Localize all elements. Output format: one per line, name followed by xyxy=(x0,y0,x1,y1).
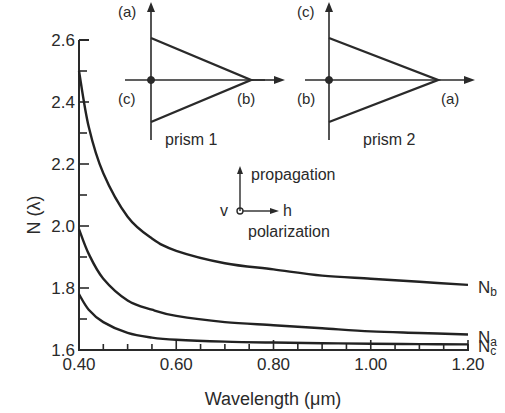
x-tick-label: 0.40 xyxy=(62,355,95,374)
x-axis-label: Wavelength (μm) xyxy=(205,389,342,409)
y-tick-label: 2.0 xyxy=(51,217,75,236)
x-tick-label: 1.20 xyxy=(451,355,484,374)
h-label: h xyxy=(283,202,292,219)
y-tick-label: 2.4 xyxy=(51,93,75,112)
y-axis-label: N (λ) xyxy=(24,196,44,235)
prism-1-arrow xyxy=(251,76,285,84)
polarization-label: polarization xyxy=(248,223,330,240)
prism-1-left-label: (c) xyxy=(118,90,136,107)
tick-labels: 1.61.82.02.22.42.60.400.600.801.001.20 xyxy=(51,31,484,374)
curve-nc xyxy=(79,294,468,344)
prism-1-right-label: (b) xyxy=(237,90,255,107)
axes xyxy=(79,40,468,350)
arrowhead-icon xyxy=(274,76,285,84)
prism-2-left-label: (b) xyxy=(297,90,315,107)
prism-2-diagram xyxy=(305,2,475,140)
prism-2-right-label: (a) xyxy=(441,90,459,107)
prism-1-top-label: (a) xyxy=(118,3,136,20)
arrowhead-icon xyxy=(147,2,155,12)
prism-1-label: prism 1 xyxy=(165,131,218,148)
prism-2-top-label: (c) xyxy=(297,3,315,20)
x-tick-label: 1.00 xyxy=(354,355,387,374)
series-labels: NbNaNc xyxy=(478,278,497,359)
x-tick-label: 0.80 xyxy=(257,355,290,374)
y-tick-label: 2.6 xyxy=(51,31,75,50)
tick-marks xyxy=(79,40,468,350)
axis-lines xyxy=(79,40,468,350)
y-tick-label: 2.2 xyxy=(51,155,75,174)
series-label-nb: Nb xyxy=(478,278,497,299)
arrowhead-icon xyxy=(325,2,333,12)
v-label: v xyxy=(220,202,228,219)
x-tick-label: 0.60 xyxy=(160,355,193,374)
arrowhead-icon xyxy=(237,166,243,174)
dispersion-chart: 1.61.82.02.22.42.60.400.600.801.001.20 N… xyxy=(0,0,505,413)
y-tick-label: 1.8 xyxy=(51,279,75,298)
curves xyxy=(79,71,468,344)
prism-1-diagram xyxy=(125,2,265,140)
arrowhead-icon xyxy=(270,208,279,214)
arrowhead-icon xyxy=(464,76,475,84)
prism-2-label: prism 2 xyxy=(363,131,416,148)
propagation-label: propagation xyxy=(251,166,336,183)
